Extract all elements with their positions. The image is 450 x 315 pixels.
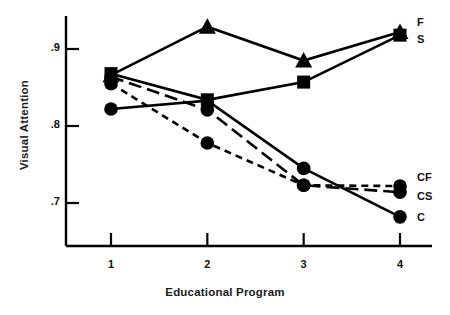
data-point-cs-1 (104, 70, 118, 84)
y-tick-label-.9: .9 (34, 41, 60, 53)
data-point-c-1 (104, 102, 118, 116)
data-point-cs-4 (393, 185, 407, 199)
series-end-label-f: F (417, 16, 424, 28)
series-f (111, 27, 400, 76)
y-tick-label-.8: .8 (34, 118, 60, 130)
data-point-cf-2 (201, 136, 215, 150)
series-end-label-cs: CS (417, 190, 432, 202)
y-axis-title-text: Visual Attention (18, 80, 30, 170)
series-line-f (111, 27, 400, 76)
series-markers-s (105, 29, 407, 107)
data-point-s-4 (394, 29, 407, 42)
series-markers-c (104, 94, 407, 224)
series-markers-f (103, 18, 409, 82)
series-end-label-s: S (417, 33, 424, 45)
data-point-s-3 (297, 76, 310, 89)
data-point-f-2 (199, 18, 216, 33)
series-end-label-cf: CF (417, 171, 432, 183)
y-tick-label-.7: .7 (34, 195, 60, 207)
series-line-c (111, 101, 400, 217)
line-chart-plot (0, 0, 450, 315)
series-c (111, 101, 400, 217)
data-point-c-3 (297, 162, 311, 176)
x-tick-label-3: 3 (294, 258, 314, 270)
data-point-c-4 (393, 210, 407, 224)
x-tick-label-1: 1 (101, 258, 121, 270)
x-axis-title: Educational Program (0, 286, 450, 298)
data-point-c-2 (201, 94, 215, 108)
x-tick-label-4: 4 (390, 258, 410, 270)
data-point-cs-3 (297, 178, 311, 192)
chart-figure: Visual Attention Educational Program .9.… (0, 0, 450, 315)
data-series (103, 18, 409, 223)
x-tick-label-2: 2 (197, 258, 217, 270)
series-end-label-c: C (417, 211, 425, 223)
